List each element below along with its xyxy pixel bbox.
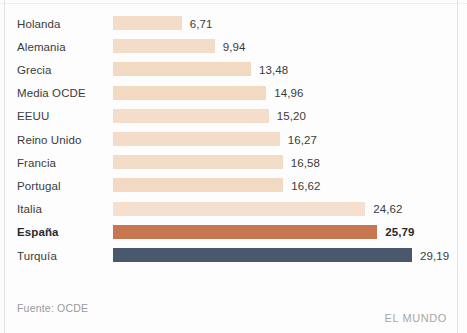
source-note: Fuente: OCDE: [17, 302, 88, 314]
category-label: Holanda: [17, 18, 109, 30]
figure-footer: Fuente: OCDE EL MUNDO: [0, 292, 467, 333]
category-label: Portugal: [17, 180, 109, 192]
bar-value-label: 14,96: [274, 87, 303, 99]
category-label: España: [17, 226, 109, 238]
bar-value-label: 15,20: [277, 110, 306, 122]
bar-row: Francia16,58: [0, 151, 467, 174]
bar: [113, 39, 215, 53]
bar: [113, 109, 269, 123]
bar-value-label: 25,79: [385, 226, 414, 238]
bar-value-label: 13,48: [259, 64, 288, 76]
bar-value-label: 24,62: [373, 203, 402, 215]
bar-value-label: 16,58: [291, 157, 320, 169]
bar-value-label: 16,62: [291, 180, 320, 192]
bar: [113, 86, 266, 100]
bar: [113, 202, 365, 216]
bar-value-label: 29,19: [420, 250, 449, 262]
bar: [113, 132, 280, 146]
bar: [113, 225, 377, 239]
bar-value-label: 9,94: [223, 41, 246, 53]
bar-row: Media OCDE14,96: [0, 82, 467, 105]
bar: [113, 62, 251, 76]
category-label: Francia: [17, 157, 109, 169]
bar-value-label: 6,71: [190, 18, 213, 30]
bar: [113, 178, 283, 192]
category-label: Media OCDE: [17, 87, 109, 99]
category-label: Alemania: [17, 41, 109, 53]
category-label: EEUU: [17, 110, 109, 122]
bar: [113, 155, 283, 169]
category-label: Grecia: [17, 64, 109, 76]
bar-row: Turquía29,19: [0, 244, 467, 267]
bar-row: Grecia13,48: [0, 58, 467, 81]
bar: [113, 248, 412, 262]
plot-area: Holanda6,71Alemania9,94Grecia13,48Media …: [0, 0, 467, 288]
bar-row: Alemania9,94: [0, 35, 467, 58]
bar-row: EEUU15,20: [0, 105, 467, 128]
publisher-credit: EL MUNDO: [385, 312, 447, 324]
bar-row: Italia24,62: [0, 198, 467, 221]
bar-row: Holanda6,71: [0, 12, 467, 35]
bar: [113, 16, 182, 30]
category-label: Turquía: [17, 250, 109, 262]
category-label: Italia: [17, 203, 109, 215]
bar-row: Portugal16,62: [0, 174, 467, 197]
bar-chart-figure: Holanda6,71Alemania9,94Grecia13,48Media …: [0, 0, 467, 333]
bar-value-label: 16,27: [288, 134, 317, 146]
category-label: Reino Unido: [17, 134, 109, 146]
bar-row: Reino Unido16,27: [0, 128, 467, 151]
bar-row: España25,79: [0, 221, 467, 244]
